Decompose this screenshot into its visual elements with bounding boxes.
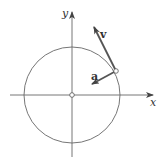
circular-motion-diagram: y x v a — [0, 0, 165, 164]
particle-point — [114, 69, 119, 74]
y-axis-label: y — [61, 7, 69, 20]
origin-marker — [70, 93, 75, 98]
velocity-label: v — [99, 28, 107, 41]
acceleration-label: a — [91, 70, 98, 83]
x-axis-label: x — [150, 96, 157, 109]
